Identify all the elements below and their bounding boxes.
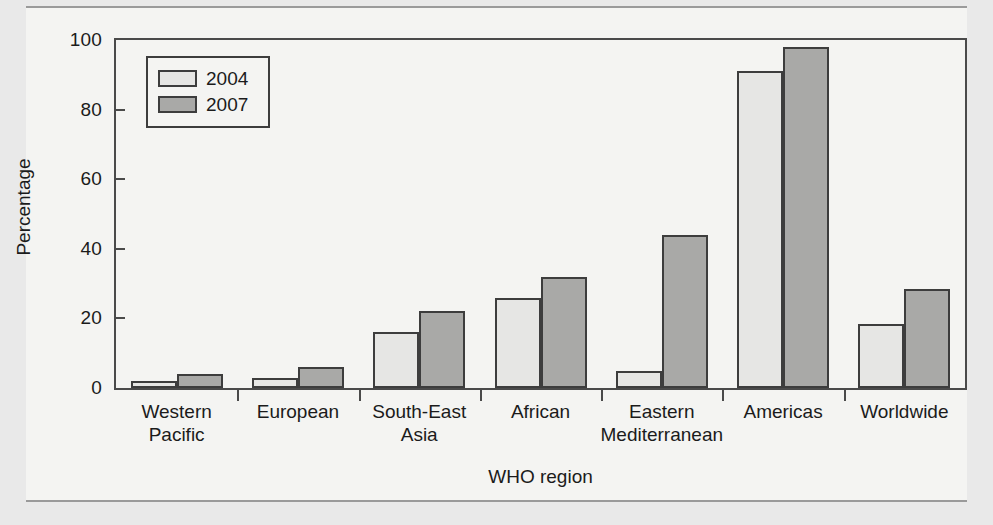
bar-2004-6 (858, 324, 904, 388)
y-tick-label: 40 (44, 239, 102, 258)
y-tick-label: 100 (44, 30, 102, 49)
y-axis-title: Percentage (13, 87, 35, 327)
bar-2004-3 (495, 298, 541, 388)
bar-2007-3 (541, 277, 587, 388)
x-axis-title: WHO region (114, 466, 967, 488)
bar-2007-1 (298, 367, 344, 388)
bar-2004-5 (737, 71, 783, 388)
x-category-label-line: Mediterranean (571, 423, 752, 446)
chart-legend: 2004 2007 (146, 56, 270, 128)
bar-2007-4 (662, 235, 708, 388)
bar-2004-4 (616, 371, 662, 388)
legend-swatch-icon-2004 (158, 70, 197, 87)
bar-2004-0 (131, 381, 177, 388)
y-tick-label: 0 (44, 378, 102, 397)
legend-entry-2007: 2007 (158, 91, 268, 117)
bar-2004-2 (373, 332, 419, 388)
bar-2007-0 (177, 374, 223, 388)
y-tick-label: 80 (44, 100, 102, 119)
x-category-label-line: Worldwide (814, 400, 993, 423)
x-category-label: Worldwide (814, 400, 993, 423)
legend-label-2004: 2004 (206, 69, 248, 88)
legend-entry-2004: 2004 (158, 65, 268, 91)
bar-2004-1 (252, 378, 298, 388)
legend-swatch-icon-2007 (158, 96, 197, 113)
bar-2007-2 (419, 311, 465, 388)
bar-chart: Percentage WHO region 020406080100 Weste… (0, 0, 993, 525)
x-category-label-line: Asia (329, 423, 510, 446)
y-tick-label: 20 (44, 308, 102, 327)
x-category-label-line: Pacific (86, 423, 267, 446)
bar-2007-5 (783, 47, 829, 388)
bar-2007-6 (904, 289, 950, 388)
legend-label-2007: 2007 (206, 95, 248, 114)
y-tick-label: 60 (44, 169, 102, 188)
